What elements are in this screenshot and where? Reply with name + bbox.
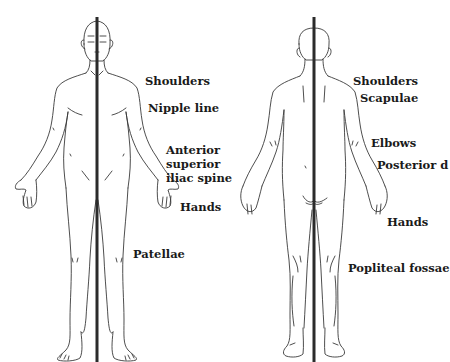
label-anterior-shoulders: Shoulders [145,74,210,88]
label-scapulae: Scapulae [360,91,418,105]
posterior-midline [313,17,316,362]
label-posterior-d: Posterior d [377,158,448,172]
label-asis-line1: Anterior [166,143,220,158]
label-patellae: Patellae [133,247,185,261]
label-posterior-shoulders: Shoulders [353,74,418,88]
anterior-midline [96,17,99,362]
label-nipple-line: Nipple line [148,101,219,115]
label-anterior-hands: Hands [180,200,221,214]
label-popliteal-fossae: Popliteal fossae [348,261,450,275]
label-asis-line2: superior [166,157,220,172]
label-posterior-hands: Hands [387,215,428,229]
label-asis-line3: iliac spine [166,171,232,186]
label-elbows: Elbows [371,136,416,150]
